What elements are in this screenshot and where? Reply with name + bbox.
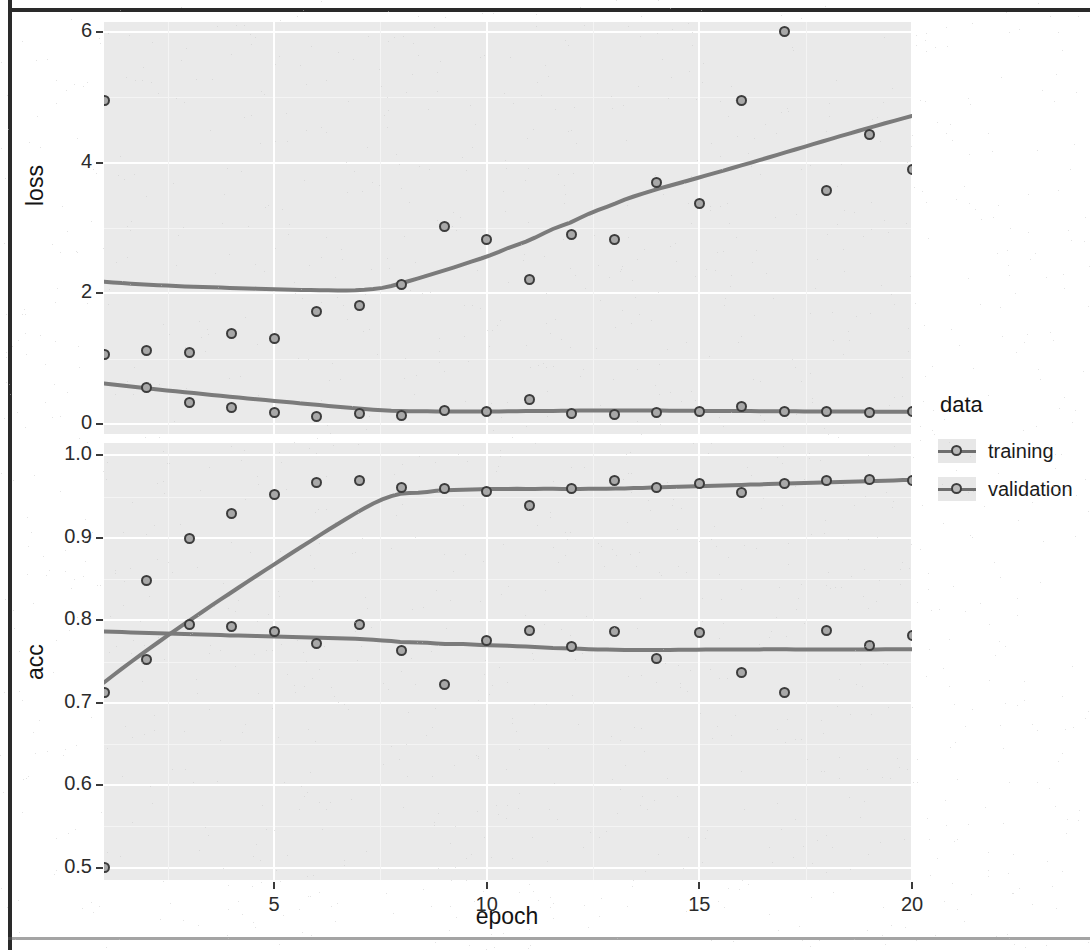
data-point-validation xyxy=(864,640,875,651)
x-tick-label: 10 xyxy=(447,893,527,916)
data-point-validation xyxy=(269,333,280,344)
data-point-training xyxy=(269,407,280,418)
tick-mark xyxy=(911,882,913,889)
training-history-figure: loss acc epoch 02460.50.60.70.80.91.0510… xyxy=(0,0,1090,950)
tick-mark xyxy=(96,292,103,294)
loss-panel xyxy=(104,22,912,434)
data-point-training xyxy=(779,478,790,489)
tick-mark xyxy=(96,31,103,33)
tick-mark xyxy=(96,867,103,869)
smooth-line-training xyxy=(104,480,912,683)
y-tick-label: 1.0 xyxy=(20,442,92,465)
x-tick-label: 20 xyxy=(872,893,952,916)
smooth-curves xyxy=(104,22,912,434)
tick-mark xyxy=(96,162,103,164)
y-tick-label: 6 xyxy=(20,19,92,42)
data-point-training xyxy=(694,406,705,417)
data-point-training xyxy=(141,382,152,393)
data-point-training xyxy=(864,474,875,485)
tick-mark xyxy=(96,702,103,704)
data-point-validation xyxy=(354,300,365,311)
data-point-validation xyxy=(651,653,662,664)
data-point-validation xyxy=(524,625,535,636)
data-point-validation xyxy=(104,687,110,698)
data-point-training xyxy=(481,406,492,417)
tick-mark xyxy=(486,882,488,889)
data-point-training xyxy=(396,410,407,421)
tick-mark xyxy=(96,454,103,456)
data-point-training xyxy=(609,475,620,486)
data-point-validation xyxy=(354,619,365,630)
y-tick-label: 0.6 xyxy=(20,772,92,795)
data-point-validation xyxy=(184,619,195,630)
y-tick-label: 2 xyxy=(20,280,92,303)
y-tick-label: 0.7 xyxy=(20,690,92,713)
data-point-validation xyxy=(779,687,790,698)
y-tick-label: 0.5 xyxy=(20,855,92,878)
legend-label-validation: validation xyxy=(988,478,1073,501)
tick-mark xyxy=(96,423,103,425)
legend-item-training[interactable]: training xyxy=(938,434,1088,468)
data-point-validation xyxy=(864,129,875,140)
data-point-training xyxy=(694,478,705,489)
data-point-training xyxy=(609,409,620,420)
data-point-training xyxy=(184,533,195,544)
data-point-training xyxy=(269,489,280,500)
tick-mark xyxy=(96,619,103,621)
legend-item-validation[interactable]: validation xyxy=(938,472,1088,506)
data-point-training xyxy=(439,405,450,416)
tick-mark xyxy=(96,537,103,539)
x-tick-label: 5 xyxy=(234,893,314,916)
y-tick-label: 4 xyxy=(20,150,92,173)
legend-label-training: training xyxy=(988,440,1054,463)
legend-key-icon xyxy=(938,477,976,501)
legend: data training validation xyxy=(938,392,1088,510)
smooth-curves xyxy=(104,443,912,880)
data-point-validation xyxy=(184,347,195,358)
x-tick-label: 15 xyxy=(659,893,739,916)
data-point-validation xyxy=(821,185,832,196)
data-point-training xyxy=(524,500,535,511)
data-point-training xyxy=(354,408,365,419)
smooth-line-validation xyxy=(104,116,912,290)
data-point-validation xyxy=(524,274,535,285)
y-tick-label: 0 xyxy=(20,411,92,434)
data-point-validation xyxy=(439,679,450,690)
tick-mark xyxy=(96,784,103,786)
y-tick-label: 0.8 xyxy=(20,607,92,630)
data-point-training xyxy=(311,411,322,422)
data-point-training xyxy=(864,407,875,418)
smooth-line-validation xyxy=(104,632,912,650)
data-point-training xyxy=(184,397,195,408)
legend-key-icon xyxy=(938,439,976,463)
legend-title: data xyxy=(940,392,1088,418)
data-point-validation xyxy=(439,221,450,232)
y-tick-label: 0.9 xyxy=(20,525,92,548)
data-point-training xyxy=(439,483,450,494)
data-point-validation xyxy=(269,626,280,637)
acc-panel xyxy=(104,443,912,880)
data-point-validation xyxy=(226,328,237,339)
tick-mark xyxy=(698,882,700,889)
data-point-validation xyxy=(694,627,705,638)
data-point-validation xyxy=(481,234,492,245)
data-point-validation xyxy=(311,638,322,649)
acc-axis-title: acc xyxy=(22,644,49,680)
data-point-validation xyxy=(226,621,237,632)
tick-mark xyxy=(273,882,275,889)
